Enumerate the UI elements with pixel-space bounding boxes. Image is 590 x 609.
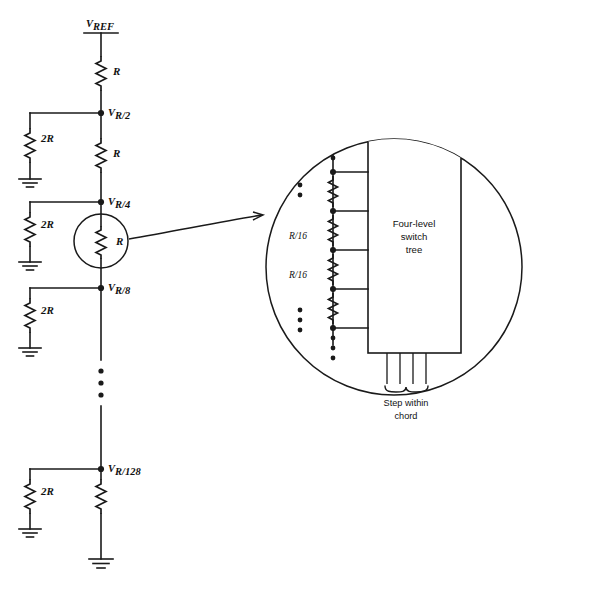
node-vr128 — [30, 466, 104, 472]
detail-resistor-label-1: R/16 — [288, 231, 307, 241]
tap-line — [330, 286, 368, 292]
node-vr8 — [30, 285, 104, 291]
node-vr4 — [30, 199, 104, 205]
switch-tree-label-line3: tree — [406, 244, 423, 255]
ground-symbol-2 — [19, 262, 41, 270]
tap-line — [330, 208, 368, 214]
shunt-resistor-3 — [19, 288, 41, 356]
node-vr2 — [30, 91, 104, 116]
switch-tree-label-line2: switch — [401, 231, 428, 242]
callout-arrow — [129, 212, 263, 239]
series-resistor-2-label: R — [112, 147, 120, 159]
series-resistor-2 — [96, 113, 106, 202]
tap-line — [330, 169, 368, 175]
shunt-resistor-3-label: 2R — [40, 304, 54, 316]
ground-symbol-1 — [19, 179, 41, 187]
series-resistor-3-label: R — [115, 235, 123, 247]
detail-output-lines — [387, 353, 426, 384]
circuit-schematic: VREF R R R 2R 2R 2R 2R VR/2 VR/4 VR/8 VR… — [0, 0, 590, 609]
figure-root: VREF R R R 2R 2R 2R 2R VR/2 VR/4 VR/8 VR… — [0, 0, 590, 609]
vref-terminal — [84, 33, 118, 56]
detail-taps — [330, 169, 368, 331]
node-vr8-label: VR/8 — [108, 282, 131, 296]
ground-symbol-bottom — [89, 559, 113, 568]
node-vr2-label: VR/2 — [108, 107, 131, 121]
detail-contents — [298, 110, 461, 392]
shunt-resistor-4 — [19, 469, 41, 537]
detail-ellipsis-upper-left — [298, 173, 303, 198]
shunt-resistor-2-label: 2R — [40, 218, 54, 230]
shunt-resistor-1 — [19, 113, 41, 187]
ladder-ellipsis — [98, 368, 103, 397]
detail-ellipsis-lower-left — [298, 308, 303, 333]
series-resistor-1-label: R — [112, 65, 120, 77]
series-resistor-1 — [96, 56, 106, 91]
detail-resistor-label-2: R/16 — [288, 270, 307, 280]
vref-label: VREF — [86, 18, 114, 32]
output-caption-line2: chord — [395, 411, 418, 421]
tap-line — [330, 325, 368, 331]
ground-symbol-3 — [19, 348, 41, 356]
node-vr128-label: VR/128 — [108, 463, 141, 477]
output-caption-line1: Step within — [384, 398, 429, 408]
shunt-resistor-4-label: 2R — [40, 485, 54, 497]
detail-ellipsis-top — [331, 136, 336, 161]
ground-symbol-4 — [19, 529, 41, 537]
tap-line — [330, 247, 368, 253]
switch-tree-label-line1: Four-level — [393, 218, 436, 229]
terminating-resistor — [89, 469, 113, 568]
output-brace — [385, 386, 428, 392]
shunt-resistor-2 — [19, 202, 41, 270]
shunt-resistor-1-label: 2R — [40, 132, 54, 144]
node-vr4-label: VR/4 — [108, 196, 130, 210]
detail-ellipsis-bottom — [331, 336, 336, 361]
